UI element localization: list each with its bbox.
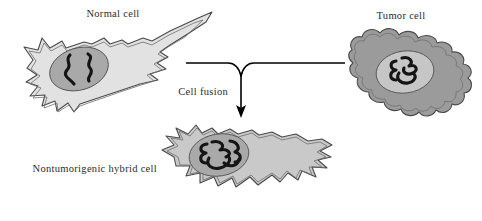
diagram-canvas: Normal cell Tumor cell Cell fusion (0, 0, 482, 221)
cell-fusion-label: Cell fusion (178, 86, 228, 97)
tumor-cell: Tumor cell (349, 10, 472, 116)
normal-cell-membrane (24, 12, 212, 112)
tumor-cell-label: Tumor cell (377, 10, 426, 21)
cell-fusion-diagram: Normal cell Tumor cell Cell fusion (0, 0, 482, 221)
connector-path (186, 63, 345, 76)
hybrid-cell: Nontumorigenic hybrid cell (33, 125, 332, 187)
normal-cell-label: Normal cell (86, 8, 139, 19)
fusion-connector: Cell fusion (178, 63, 345, 118)
hybrid-cell-label: Nontumorigenic hybrid cell (33, 163, 157, 174)
